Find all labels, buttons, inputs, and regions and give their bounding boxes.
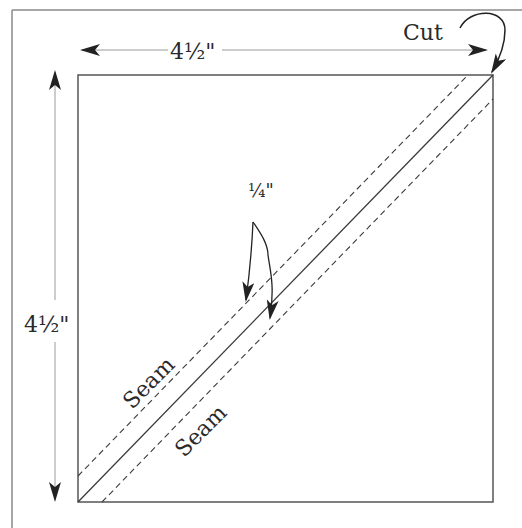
seam-label-lower: Seam (170, 400, 232, 462)
seam-line-lower (102, 99, 493, 502)
diagram-canvas: 4½" 4½" Cut ¼" Seam Seam (0, 0, 522, 528)
cut-line (78, 75, 493, 502)
width-dimension-label: 4½" (170, 39, 215, 64)
seam-line-upper (78, 75, 468, 476)
cut-label: Cut (403, 20, 443, 45)
seam-allowance-arrow-upper (246, 222, 253, 300)
cut-arrow (460, 13, 505, 72)
seam-allowance-label: ¼" (248, 180, 274, 201)
outer-frame (12, 10, 522, 528)
seam-allowance-arrow-lower (253, 222, 272, 318)
height-dimension-label: 4½" (24, 312, 69, 337)
seam-label-upper: Seam (118, 352, 180, 414)
